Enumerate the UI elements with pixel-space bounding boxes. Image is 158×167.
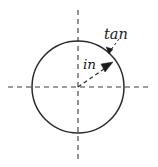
label-tan: tan: [104, 26, 128, 42]
label-in: in: [83, 56, 96, 72]
geometry-diagram-svg: tan in: [0, 0, 158, 167]
figure-container: tan in: [0, 0, 158, 167]
